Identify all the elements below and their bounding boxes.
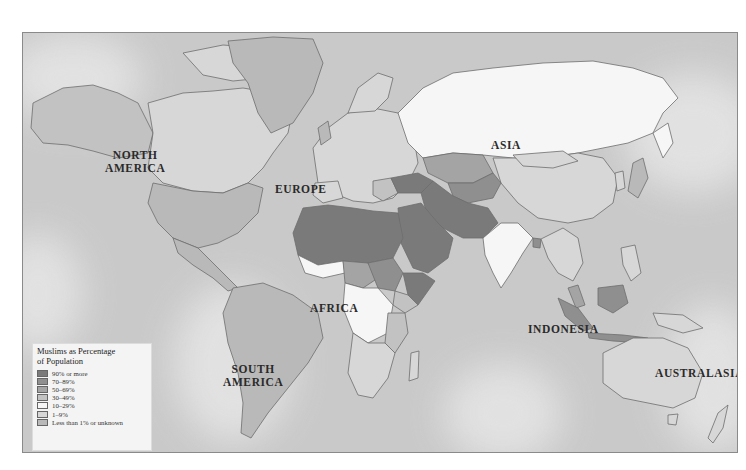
legend-swatch-10-29 bbox=[37, 402, 48, 409]
legend-item: 10–29% bbox=[37, 402, 147, 410]
label-north-america: NORTH AMERICA bbox=[105, 149, 165, 175]
legend-swatch-90-plus bbox=[37, 370, 48, 377]
legend-item: 70–89% bbox=[37, 377, 147, 385]
label-south-america: SOUTH AMERICA bbox=[223, 363, 283, 389]
legend-label: 1–9% bbox=[52, 411, 68, 418]
region-south-america bbox=[223, 283, 323, 438]
legend-label: 70–89% bbox=[52, 378, 75, 385]
label-south-america-line1: SOUTH bbox=[223, 363, 283, 376]
label-indonesia: INDONESIA bbox=[528, 323, 599, 336]
legend-item: Less than 1% or unknown bbox=[37, 418, 147, 426]
legend-swatch-less-than-1 bbox=[37, 419, 48, 426]
region-bangladesh bbox=[533, 238, 541, 248]
legend-label: Less than 1% or unknown bbox=[52, 419, 123, 426]
region-indonesia-borneo bbox=[598, 285, 628, 313]
region-north-africa bbox=[293, 205, 403, 265]
legend-title-line2: of Population bbox=[37, 357, 147, 367]
label-north-america-line1: NORTH bbox=[105, 149, 165, 162]
region-usa bbox=[148, 183, 263, 248]
label-australasia: AUSTRALASIA bbox=[655, 367, 738, 380]
legend-swatch-50-69 bbox=[37, 386, 48, 393]
legend-swatch-70-89 bbox=[37, 378, 48, 385]
legend-title: Muslims as Percentage of Population bbox=[37, 347, 147, 366]
region-sudan bbox=[368, 258, 403, 291]
legend-swatch-30-49 bbox=[37, 394, 48, 401]
legend-label: 50–69% bbox=[52, 386, 75, 393]
label-europe: EUROPE bbox=[275, 183, 327, 196]
region-philippines bbox=[621, 245, 641, 281]
label-south-america-line2: AMERICA bbox=[223, 376, 283, 389]
label-africa: AFRICA bbox=[310, 302, 358, 315]
region-tasmania bbox=[668, 414, 678, 425]
label-north-america-line2: AMERICA bbox=[105, 162, 165, 175]
legend-item: 50–69% bbox=[37, 385, 147, 393]
legend-label: 10–29% bbox=[52, 402, 75, 409]
map-legend: Muslims as Percentage of Population 90% … bbox=[32, 343, 152, 451]
region-madagascar bbox=[409, 351, 419, 381]
region-india bbox=[483, 223, 533, 288]
region-new-zealand bbox=[708, 405, 728, 443]
region-japan bbox=[628, 158, 648, 198]
cropped-page-text bbox=[0, 0, 746, 12]
region-korea bbox=[615, 171, 625, 191]
region-russia bbox=[398, 61, 678, 158]
region-new-guinea bbox=[653, 313, 703, 333]
legend-item: 1–9% bbox=[37, 410, 147, 418]
legend-label: 90% or more bbox=[52, 370, 88, 377]
region-kamchatka bbox=[653, 123, 673, 158]
region-scandinavia bbox=[348, 73, 393, 113]
region-alaska bbox=[31, 85, 153, 158]
legend-item: 90% or more bbox=[37, 369, 147, 377]
region-mainland-southeast-asia bbox=[541, 228, 583, 281]
legend-swatch-1-9 bbox=[37, 411, 48, 418]
legend-label: 30–49% bbox=[52, 394, 75, 401]
label-asia: ASIA bbox=[491, 139, 521, 152]
legend-item: 30–49% bbox=[37, 394, 147, 402]
